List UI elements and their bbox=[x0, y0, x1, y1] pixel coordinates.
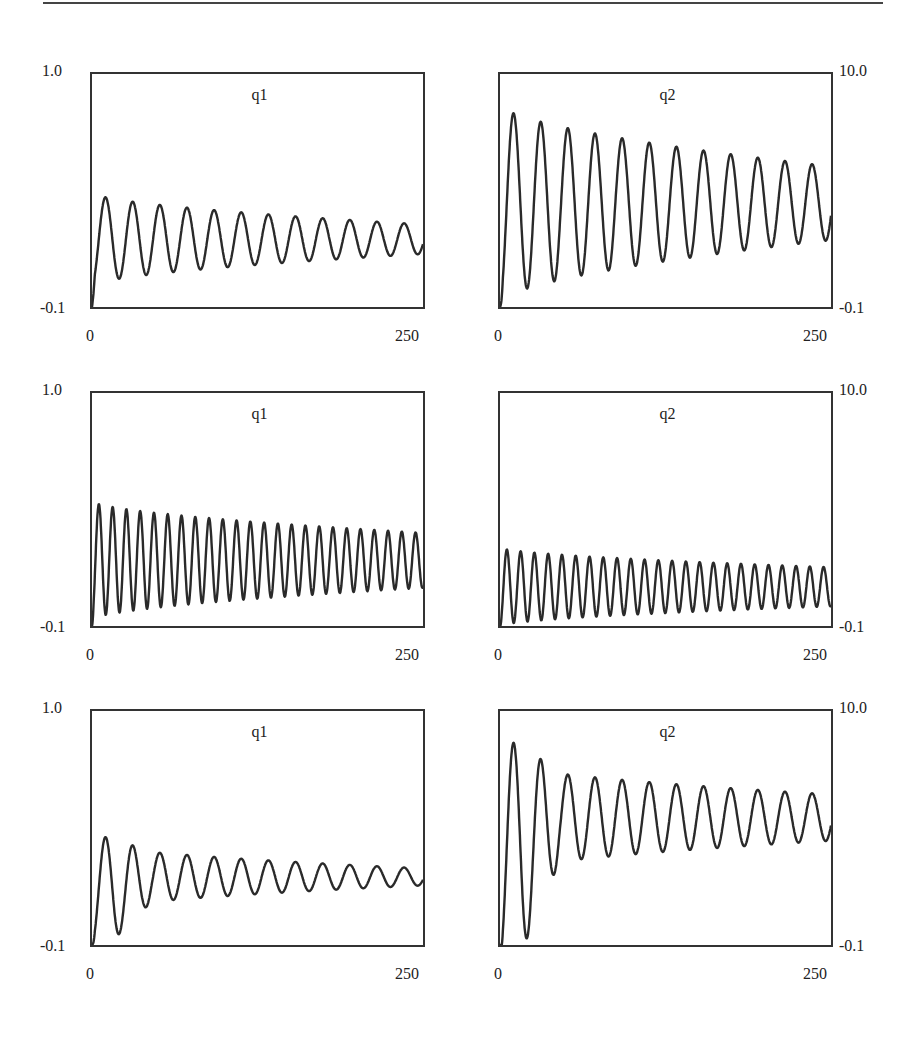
waveform-line bbox=[92, 74, 423, 307]
x-tick-min: 0 bbox=[86, 965, 94, 983]
y-tick-min: -0.1 bbox=[839, 618, 864, 636]
waveform-line bbox=[500, 74, 831, 307]
panel-title: q2 bbox=[660, 723, 676, 741]
y-tick-min: -0.1 bbox=[40, 937, 65, 955]
y-tick-max: 1.0 bbox=[42, 62, 62, 80]
panel-title: q2 bbox=[660, 86, 676, 104]
waveform-line bbox=[500, 393, 831, 626]
x-tick-max: 250 bbox=[395, 965, 419, 983]
y-tick-max: 1.0 bbox=[42, 699, 62, 717]
plot-area: q2 bbox=[498, 72, 833, 309]
panel-title: q1 bbox=[252, 405, 268, 423]
plot-area: q2 bbox=[498, 709, 833, 947]
x-tick-max: 250 bbox=[803, 646, 827, 664]
waveform-line bbox=[500, 711, 831, 945]
panel-title: q2 bbox=[660, 405, 676, 423]
y-tick-min: -0.1 bbox=[40, 618, 65, 636]
x-tick-min: 0 bbox=[86, 327, 94, 345]
waveform-line bbox=[92, 393, 423, 626]
x-tick-min: 0 bbox=[494, 646, 502, 664]
x-tick-min: 0 bbox=[494, 327, 502, 345]
y-tick-max: 1.0 bbox=[42, 381, 62, 399]
panel-title: q1 bbox=[252, 86, 268, 104]
x-tick-min: 0 bbox=[494, 965, 502, 983]
y-tick-min: -0.1 bbox=[40, 299, 65, 317]
x-tick-max: 250 bbox=[395, 646, 419, 664]
plot-area: q1 bbox=[90, 709, 425, 947]
x-tick-min: 0 bbox=[86, 646, 94, 664]
plot-area: q1 bbox=[90, 391, 425, 628]
y-tick-min: -0.1 bbox=[839, 937, 864, 955]
top-rule bbox=[43, 2, 883, 4]
x-tick-max: 250 bbox=[395, 327, 419, 345]
panel-title: q1 bbox=[252, 723, 268, 741]
waveform-line bbox=[92, 711, 423, 945]
plot-area: q1 bbox=[90, 72, 425, 309]
y-tick-max: 10.0 bbox=[839, 699, 867, 717]
y-tick-min: -0.1 bbox=[839, 299, 864, 317]
x-tick-max: 250 bbox=[803, 965, 827, 983]
y-tick-max: 10.0 bbox=[839, 62, 867, 80]
y-tick-max: 10.0 bbox=[839, 381, 867, 399]
x-tick-max: 250 bbox=[803, 327, 827, 345]
plot-area: q2 bbox=[498, 391, 833, 628]
